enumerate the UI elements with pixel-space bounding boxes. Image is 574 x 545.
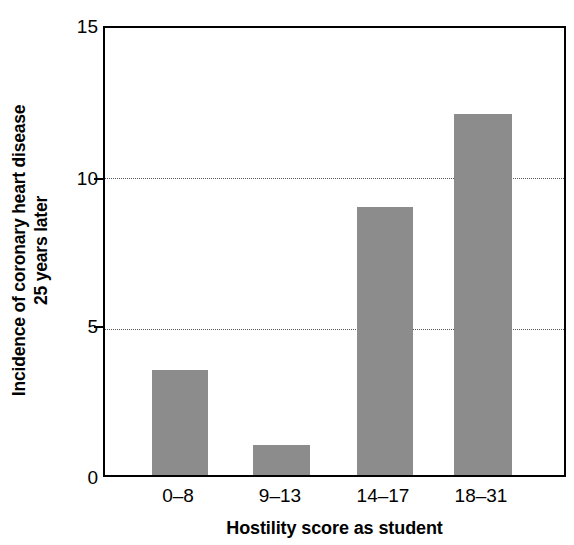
x-tick-label: 9–13 — [259, 486, 301, 505]
x-tick-label: 14–17 — [357, 486, 410, 505]
x-axis-title: Hostility score as student — [103, 518, 566, 539]
bar-14-17 — [357, 207, 413, 475]
y-axis-tick-labels: 0 5 10 15 — [58, 0, 98, 545]
y-tick-label: 10 — [62, 169, 98, 188]
y-axis-title-line-2: 25 years later — [31, 104, 53, 396]
y-tick-label: 0 — [62, 468, 98, 487]
x-axis-tick-labels: 0–8 9–13 14–17 18–31 — [103, 486, 566, 516]
y-tick-label: 5 — [62, 317, 98, 336]
y-tick-mark — [94, 178, 103, 180]
bar-9-13 — [253, 445, 310, 475]
bar-0-8 — [152, 370, 208, 475]
bar-chart-figure: Incidence of coronary heart disease 25 y… — [0, 0, 574, 545]
y-tick-mark — [94, 326, 103, 328]
x-tick-label: 0–8 — [162, 486, 194, 505]
plot-inner — [105, 28, 564, 475]
x-tick-label: 18–31 — [455, 486, 508, 505]
y-tick-label: 15 — [62, 17, 98, 36]
bar-18-31 — [454, 114, 512, 475]
y-axis-title-line-1: Incidence of coronary heart disease — [9, 104, 31, 396]
y-axis-title: Incidence of coronary heart disease 25 y… — [0, 0, 62, 500]
plot-area — [103, 26, 566, 477]
